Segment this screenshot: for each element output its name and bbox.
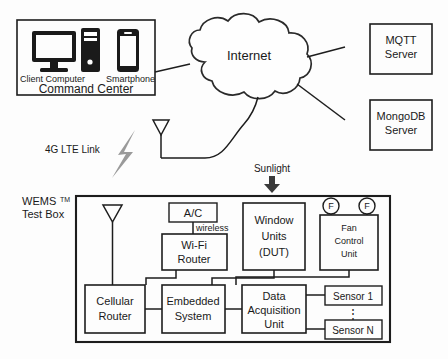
- mongodb-server-label-line1: MongoDB: [377, 110, 426, 122]
- window-units-label-line1: Window: [254, 214, 293, 226]
- wire-internet-to-mongodb-server: [297, 84, 345, 120]
- data-acquisition-unit-label-line1: Data: [262, 290, 286, 302]
- embedded-system-label-line2: System: [175, 310, 212, 322]
- smartphone-icon: [117, 29, 139, 72]
- down-arrow-icon: [264, 176, 280, 193]
- mqtt-server-label-line2: Server: [385, 48, 418, 60]
- desktop-computer-icon: [32, 28, 100, 72]
- wire-antenna-to-internet: [161, 97, 258, 158]
- fan-icon-1: F: [323, 198, 339, 215]
- fan-control-unit-label-line3: Unit: [341, 249, 358, 259]
- antenna-icon-external: [153, 120, 169, 158]
- wire-command-center-to-internet: [155, 64, 190, 72]
- wems-test-box-label-line2: Test Box: [22, 208, 65, 220]
- diagram-canvas: Client Computer Smartphone Command Cente…: [0, 0, 448, 359]
- ac-label: A/C: [184, 207, 202, 219]
- wems-test-box-label-line1: WEMS: [22, 195, 56, 207]
- wire-fan-control-unit-to-embedded-system: [236, 270, 349, 285]
- cellular-router-label-line1: Cellular: [96, 295, 134, 307]
- lightning-bolt-icon: [112, 130, 135, 178]
- sensor-1-label: Sensor 1: [333, 291, 373, 302]
- sensor-ellipsis: ⋮: [347, 307, 359, 321]
- wire-wifi-router-to-embedded-system: [146, 270, 176, 285]
- wireless-label: wireless: [195, 223, 229, 233]
- fan-icon-2: F: [359, 198, 375, 215]
- wifi-router-label-line1: Wi-Fi: [181, 239, 207, 251]
- fan-2-label: F: [364, 201, 370, 211]
- fan-control-unit-label-line1: Fan: [341, 223, 357, 233]
- window-units-label-line2: Units: [261, 230, 287, 242]
- sunlight-label: Sunlight: [254, 163, 290, 174]
- wire-internet-to-mqtt-server: [307, 47, 345, 57]
- embedded-system-box: [162, 285, 225, 333]
- window-units-label-line3: (DUT): [259, 246, 289, 258]
- cellular-router-box: [85, 285, 145, 333]
- data-acquisition-unit-label-line3: Unit: [264, 318, 284, 330]
- data-acquisition-unit-label-line2: Acquisition: [247, 304, 300, 316]
- antenna-icon-internal: [103, 205, 122, 285]
- wifi-router-label-line2: Router: [177, 253, 210, 265]
- sensor-n-label: Sensor N: [332, 325, 374, 336]
- fan-control-unit-label-line2: Control: [334, 236, 363, 246]
- embedded-system-label-line1: Embedded: [166, 295, 219, 307]
- mqtt-server-label-line1: MQTT: [385, 34, 416, 46]
- fan-1-label: F: [328, 201, 334, 211]
- link-4g-lte-label: 4G LTE Link: [45, 144, 101, 155]
- mongodb-server-label-line2: Server: [385, 124, 418, 136]
- cellular-router-label-line2: Router: [98, 310, 131, 322]
- architecture-diagram: Client Computer Smartphone Command Cente…: [0, 0, 448, 359]
- wems-test-box-label-sup: TM: [60, 196, 70, 203]
- command-center-label: Command Center: [39, 82, 134, 96]
- internet-label: Internet: [227, 48, 271, 63]
